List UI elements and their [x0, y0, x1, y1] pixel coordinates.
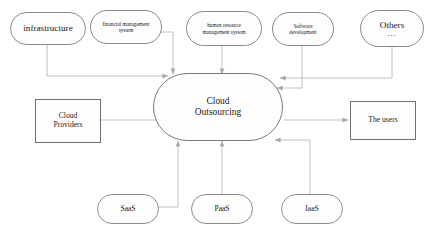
node-infrastructure-label: infrastructure — [21, 23, 75, 34]
node-cloud-providers-label: Cloud Providers — [51, 112, 84, 129]
node-software-line2: development — [289, 29, 316, 35]
node-paas-label: PaaS — [212, 205, 231, 214]
node-cloud-providers-line1: Cloud — [59, 111, 78, 120]
edge-financial-to-core — [160, 32, 173, 74]
cloud-outsourcing-diagram: infrastructure financial management syst… — [0, 0, 432, 236]
node-hr-line2: management system — [202, 29, 245, 35]
node-financial-line2: system — [119, 27, 134, 33]
node-cloud-outsourcing-core[interactable]: Cloud Outsourcing — [153, 73, 283, 141]
node-human-resource-label: human resource management system — [200, 22, 247, 34]
node-iaas[interactable]: IaaS — [281, 194, 343, 224]
node-saas-label: SaaS — [118, 205, 137, 214]
node-human-resource-management-system[interactable]: human resource management system — [186, 11, 262, 46]
node-others-ellipsis: ... — [388, 30, 397, 37]
node-others[interactable]: Others ... — [360, 10, 424, 47]
node-saas[interactable]: SaaS — [97, 194, 159, 224]
edge-infrastructure-to-core — [47, 45, 168, 76]
node-paas[interactable]: PaaS — [191, 194, 253, 224]
node-the-users-label: The users — [366, 116, 399, 125]
node-software-development-label: Software development — [287, 23, 318, 35]
node-software-development[interactable]: Software development — [272, 12, 334, 46]
node-core-line2: Outsourcing — [195, 107, 241, 117]
edge-saas-to-core — [158, 141, 178, 207]
node-core-line1: Cloud — [207, 96, 230, 106]
node-infrastructure[interactable]: infrastructure — [10, 12, 86, 45]
node-cloud-providers-line2: Providers — [53, 120, 82, 129]
edge-others-to-core — [280, 47, 392, 78]
edge-software-to-core — [277, 46, 302, 88]
node-iaas-label: IaaS — [303, 205, 321, 214]
node-financial-management-system-label: financial management system — [101, 21, 152, 33]
node-the-users[interactable]: The users — [350, 101, 416, 140]
node-cloud-providers[interactable]: Cloud Providers — [35, 99, 101, 143]
edge-iaas-to-core — [275, 140, 310, 195]
node-cloud-outsourcing-label: Cloud Outsourcing — [193, 96, 243, 118]
node-financial-management-system[interactable]: financial management system — [90, 10, 162, 44]
